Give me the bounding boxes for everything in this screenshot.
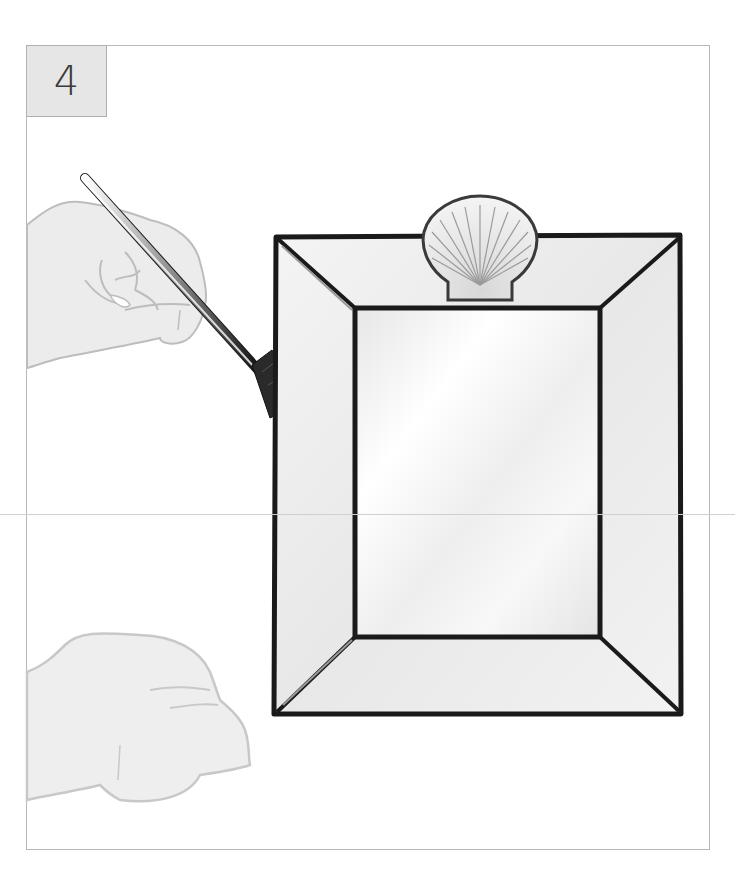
resting-hand [27,633,250,801]
illustration-art [0,0,735,883]
mirror-glass [355,308,600,637]
guide-line [0,514,735,515]
